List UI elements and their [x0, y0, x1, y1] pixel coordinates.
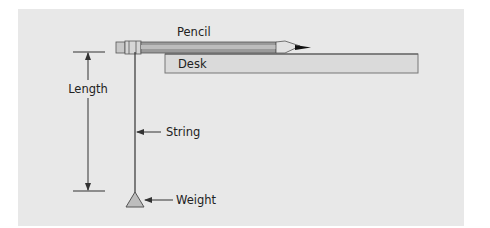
weight	[126, 192, 144, 207]
string-label: String	[166, 125, 200, 139]
length-label: Length	[68, 82, 108, 96]
weight-label: Weight	[176, 193, 217, 207]
length-dimension	[73, 52, 105, 191]
pencil	[116, 41, 311, 54]
desk-label: Desk	[178, 57, 207, 71]
pendulum-diagram: Desk Pencil Length String Weight	[0, 0, 490, 228]
pencil-label: Pencil	[177, 25, 211, 39]
